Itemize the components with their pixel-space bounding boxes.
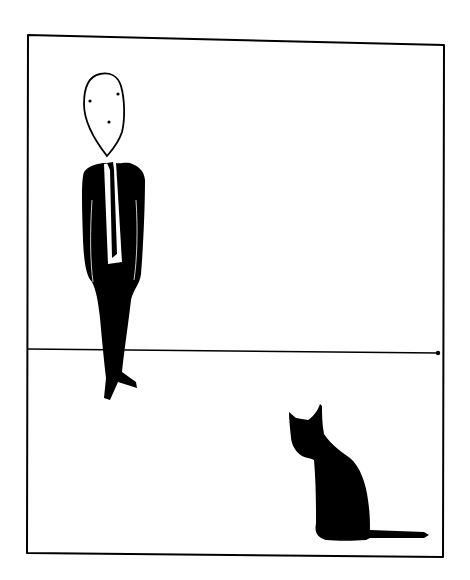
man-head <box>84 74 124 157</box>
man-eye-left <box>88 99 91 102</box>
cat-silhouette <box>289 404 429 541</box>
man-mouth-dot <box>107 120 110 123</box>
ink-illustration <box>0 0 470 580</box>
man-figure <box>82 74 145 401</box>
horizon-line <box>28 349 438 353</box>
horizon-dot <box>436 351 440 355</box>
man-eye-right <box>116 92 119 95</box>
